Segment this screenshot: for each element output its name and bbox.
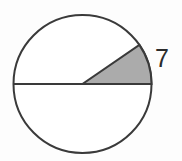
radius-label: 7 xyxy=(155,45,169,71)
circle-sector-figure xyxy=(0,0,182,161)
figure-container: 7 xyxy=(0,0,182,161)
